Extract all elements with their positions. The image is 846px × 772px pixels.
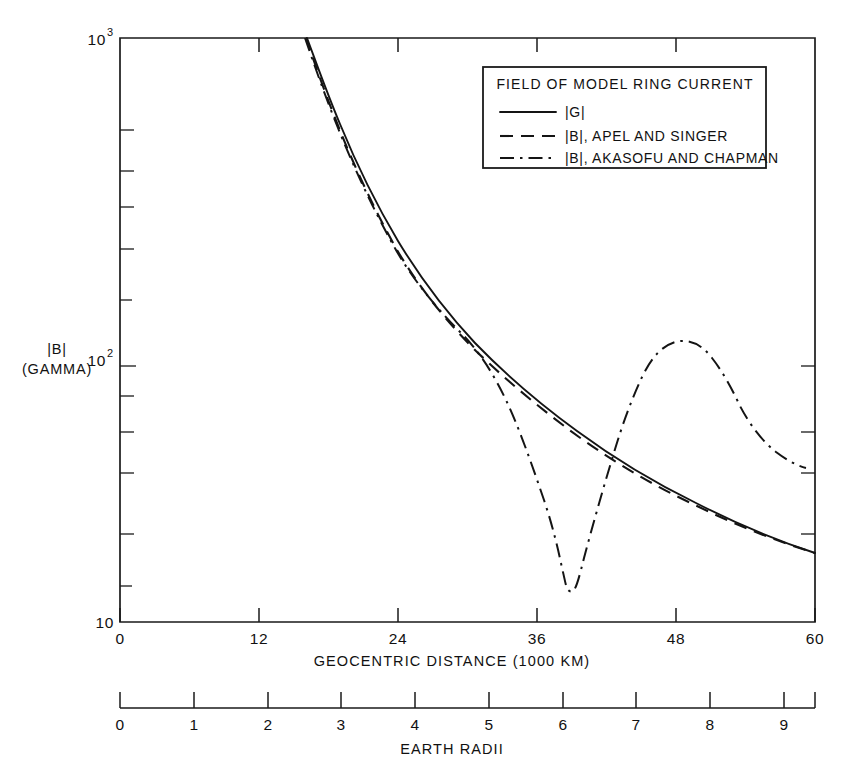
earth-radii-tick-label-3: 3 bbox=[336, 716, 345, 733]
y-tick-exp-3: 3 bbox=[107, 26, 114, 38]
secondary-axis-title: EARTH RADII bbox=[400, 741, 504, 757]
y-axis-tick-labels: 10 3 10 2 10 bbox=[88, 26, 114, 631]
earth-radii-tick-label-4: 4 bbox=[410, 716, 419, 733]
legend: FIELD OF MODEL RING CURRENT |G| |B|, APE… bbox=[483, 67, 779, 168]
y-axis-title-group: |B| (GAMMA) bbox=[22, 341, 92, 377]
x-tick-label-60: 60 bbox=[806, 630, 824, 647]
y-tick-exp-2: 2 bbox=[107, 347, 114, 359]
x-axis-ticks bbox=[120, 608, 815, 622]
y-axis-units: (GAMMA) bbox=[22, 361, 92, 377]
earth-radii-tick-label-9: 9 bbox=[779, 716, 788, 733]
x-tick-label-36: 36 bbox=[528, 630, 546, 647]
y-axis-right-minor-ticks bbox=[801, 366, 815, 534]
legend-label-akasofu-chapman: |B|, AKASOFU AND CHAPMAN bbox=[565, 150, 779, 166]
x-tick-label-12: 12 bbox=[250, 630, 268, 647]
secondary-axis-earth-radii: 0 1 2 3 4 5 6 7 8 9 EARTH RADII bbox=[115, 692, 815, 757]
earth-radii-tick-label-0: 0 bbox=[115, 716, 124, 733]
earth-radii-tick-label-7: 7 bbox=[631, 716, 640, 733]
x-tick-label-48: 48 bbox=[667, 630, 685, 647]
figure-container: 10 3 10 2 10 bbox=[0, 0, 846, 772]
y-tick-label-1000: 10 bbox=[88, 31, 106, 48]
x-axis-tick-labels: 0 12 24 36 48 60 bbox=[115, 630, 824, 647]
y-axis-title: |B| bbox=[47, 341, 67, 357]
x-tick-label-0: 0 bbox=[115, 630, 124, 647]
x-axis-top-ticks bbox=[259, 38, 676, 52]
legend-label-apel-singer: |B|, APEL AND SINGER bbox=[565, 128, 728, 144]
y-axis-minor-ticks bbox=[120, 130, 136, 586]
x-axis-title: GEOCENTRIC DISTANCE (1000 KM) bbox=[314, 653, 591, 669]
ring-current-field-chart: 10 3 10 2 10 bbox=[0, 0, 846, 772]
earth-radii-tick-label-8: 8 bbox=[705, 716, 714, 733]
earth-radii-tick-label-5: 5 bbox=[484, 716, 493, 733]
y-tick-label-10: 10 bbox=[96, 614, 114, 631]
legend-title: FIELD OF MODEL RING CURRENT bbox=[496, 76, 753, 92]
legend-label-g: |G| bbox=[565, 104, 585, 120]
x-tick-label-24: 24 bbox=[389, 630, 407, 647]
earth-radii-tick-label-1: 1 bbox=[189, 716, 198, 733]
earth-radii-tick-label-6: 6 bbox=[558, 716, 567, 733]
earth-radii-tick-label-2: 2 bbox=[263, 716, 272, 733]
